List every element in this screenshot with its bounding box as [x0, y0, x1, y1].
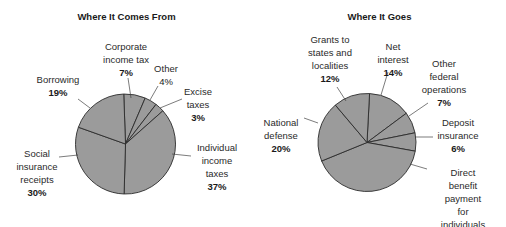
- label-other: Other 4%: [154, 62, 178, 88]
- chart-title: Where It Comes From: [0, 11, 253, 22]
- label-excise-taxes: Excise taxes 3%: [184, 85, 212, 124]
- label-individual-income-taxes: Individual income taxes 37%: [197, 141, 237, 193]
- label-borrowing: Borrowing 19%: [37, 73, 80, 99]
- label-other-federal-operations: Other federal operations 7%: [422, 57, 466, 109]
- label-social-insurance-receipts: Social insurance receipts 30%: [16, 147, 57, 199]
- chart-title: Where It Goes: [253, 11, 506, 22]
- label-deposit-insurance: Deposit insurance 6%: [437, 116, 478, 155]
- chart-where-it-comes-from: Where It Comes From Corporate income tax…: [0, 0, 253, 227]
- label-grants-to-states: Grants to states and localities 12%: [308, 33, 352, 85]
- label-corporate-income-tax: Corporate income tax 7%: [103, 40, 149, 79]
- label-national-defense: National defense 20%: [264, 116, 299, 155]
- label-net-interest: Net interest 14%: [377, 40, 408, 79]
- label-direct-benefit-payment: Direct benefit payment for individuals 4…: [441, 166, 485, 227]
- chart-where-it-goes: Where It Goes Net interest 14% Other fed…: [253, 0, 506, 227]
